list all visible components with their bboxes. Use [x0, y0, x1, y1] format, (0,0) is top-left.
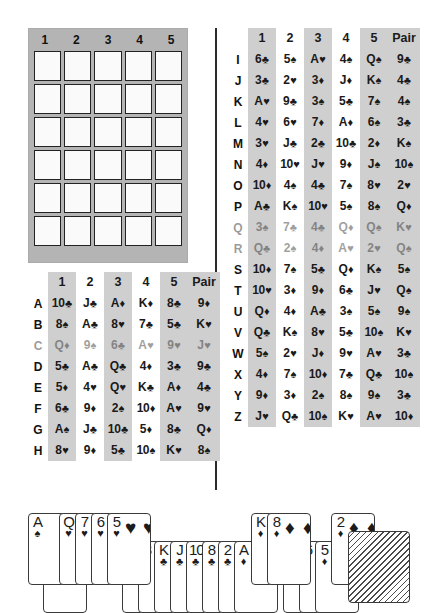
answer-grid-cell[interactable]	[34, 150, 61, 180]
answer-grid-cell[interactable]	[155, 51, 182, 81]
card-cell: 3♣	[388, 385, 420, 406]
answer-grid-cell[interactable]	[34, 183, 61, 213]
face-down-card[interactable]	[348, 531, 410, 603]
answer-grid-cell[interactable]	[125, 150, 152, 180]
answer-grid-cell[interactable]	[34, 117, 61, 147]
card-cell: 3♠	[304, 91, 332, 112]
answer-grid-cell[interactable]	[94, 183, 121, 213]
card-cell: A♥	[248, 91, 276, 112]
answer-grid-cell[interactable]	[155, 150, 182, 180]
card-cell: 4♠	[388, 91, 420, 112]
card-cell: 4♦	[248, 364, 276, 385]
answer-grid-cell[interactable]	[94, 84, 121, 114]
card-cell: J♥	[304, 154, 332, 175]
row-label-m: M	[228, 137, 248, 151]
card-cell: J♣	[76, 293, 104, 314]
card-cell: 10♠	[388, 154, 420, 175]
playing-card[interactable]: 5♥♥♥	[107, 513, 151, 585]
card-cell: A♥	[332, 238, 360, 259]
answer-grid-cell[interactable]	[34, 216, 61, 246]
table-row: M3♥J♣2♣10♣2♦K♠	[228, 133, 420, 154]
card-cell: A♥	[360, 406, 388, 427]
playing-card[interactable]: 8♦♦♦	[267, 513, 311, 585]
card-cell: Q♥	[104, 377, 132, 398]
answer-grid-cell[interactable]	[34, 84, 61, 114]
table-row: N4♦10♥J♥9♦J♠10♠	[228, 154, 420, 175]
answer-grid-row	[34, 84, 182, 114]
card-cell: A♦	[332, 112, 360, 133]
column-header-5: 5	[160, 272, 188, 293]
answer-grid-cell[interactable]	[94, 51, 121, 81]
card-cell: 6♣	[48, 398, 76, 419]
answer-grid-cell[interactable]	[94, 117, 121, 147]
answer-grid-cell[interactable]	[64, 216, 91, 246]
card-cell: Q♣	[248, 238, 276, 259]
answer-grid-cell[interactable]	[64, 51, 91, 81]
card-cell: 7♠	[332, 175, 360, 196]
table-row: O10♦4♠4♣7♠8♥2♥	[228, 175, 420, 196]
card-cell: 10♣	[332, 133, 360, 154]
answer-grid-cell[interactable]	[94, 150, 121, 180]
card-cell: 8♠	[332, 385, 360, 406]
card-corner-index: 8♦	[270, 514, 283, 539]
card-cell: K♥	[332, 406, 360, 427]
answer-grid-header: 12345	[29, 29, 187, 51]
card-cell: 3♦	[276, 280, 304, 301]
card-cell: 8♥	[104, 314, 132, 335]
card-cell: 3♥	[248, 133, 276, 154]
card-cell: 10♦	[248, 175, 276, 196]
card-cell: Q♦	[188, 419, 220, 440]
card-cell: 10♣	[48, 293, 76, 314]
answer-grid-cell[interactable]	[64, 183, 91, 213]
card-cell: 10♦	[388, 406, 420, 427]
table-row: J3♣2♥3♦J♦K♠4♣	[228, 70, 420, 91]
answer-grid-cell[interactable]	[34, 51, 61, 81]
card-cell: 8♣	[160, 419, 188, 440]
card-cell: K♥	[388, 217, 420, 238]
answer-grid-cell[interactable]	[64, 117, 91, 147]
answer-grid-cell[interactable]	[125, 51, 152, 81]
card-cell: 5♣	[332, 91, 360, 112]
answer-grid-cell[interactable]	[94, 216, 121, 246]
card-center-pip: ♥	[143, 518, 151, 537]
card-cell: 5♠	[248, 343, 276, 364]
card-cell: 2♥	[360, 238, 388, 259]
answer-grid-cell[interactable]	[64, 150, 91, 180]
answer-grid-cell[interactable]	[125, 117, 152, 147]
card-cell: K♠	[360, 259, 388, 280]
card-cell: 10♠	[388, 364, 420, 385]
answer-grid-cell[interactable]	[155, 216, 182, 246]
answer-grid-cell[interactable]	[64, 84, 91, 114]
blank-answer-grid[interactable]: 12345	[28, 28, 188, 263]
card-cell: Q♣	[248, 322, 276, 343]
card-corner-index: 2♦	[334, 514, 347, 539]
answer-grid-row	[34, 117, 182, 147]
card-cell: 8♣	[160, 293, 188, 314]
answer-grid-cell[interactable]	[155, 84, 182, 114]
card-cell: 10♥	[276, 154, 304, 175]
row-label-f: F	[28, 402, 48, 416]
card-cell: 10♥	[304, 196, 332, 217]
column-header-1: 1	[48, 272, 76, 293]
answer-grid-cell[interactable]	[155, 183, 182, 213]
column-header-4: 4	[332, 28, 360, 49]
card-cell: 7♣	[276, 217, 304, 238]
table-row: B8♠A♣8♥7♣5♣K♥	[28, 314, 220, 335]
table-row: T10♥3♦9♦6♣J♥Q♠	[228, 280, 420, 301]
answer-grid-col-header-3: 3	[92, 29, 124, 51]
card-corner-index: Q♥	[62, 514, 75, 539]
answer-grid-cell[interactable]	[125, 216, 152, 246]
answer-grid-row	[34, 216, 182, 246]
answer-grid-cell[interactable]	[125, 84, 152, 114]
answer-grid-row	[34, 51, 182, 81]
card-cell: 4♣	[304, 217, 332, 238]
table-row: Y9♦3♦2♠8♠9♠3♣	[228, 385, 420, 406]
card-cell: Q♦	[332, 259, 360, 280]
answer-grid-cell[interactable]	[125, 183, 152, 213]
card-cell: J♥	[248, 406, 276, 427]
table-row: D5♣A♣Q♣4♦3♣9♣	[28, 356, 220, 377]
card-corner-index: 10♣	[189, 542, 202, 567]
row-label-q: Q	[228, 221, 248, 235]
answer-grid-cell[interactable]	[155, 117, 182, 147]
table-row: PA♣K♠10♥5♠8♠Q♦	[228, 196, 420, 217]
